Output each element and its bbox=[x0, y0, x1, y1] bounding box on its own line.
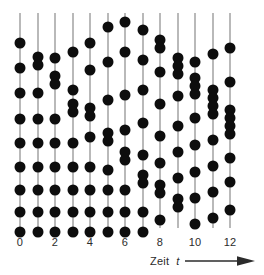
spike-dot bbox=[225, 153, 236, 164]
spike-dot bbox=[207, 213, 218, 224]
spike-dot bbox=[50, 138, 61, 149]
spike-dot bbox=[155, 131, 166, 142]
x-tick-label: 4 bbox=[87, 236, 93, 248]
spike-dot bbox=[155, 99, 166, 110]
right-arrow-icon bbox=[185, 255, 257, 267]
spike-dot bbox=[120, 155, 131, 166]
spike-dot bbox=[190, 140, 201, 151]
x-tick-label: 0 bbox=[17, 236, 23, 248]
trial-line bbox=[124, 13, 126, 228]
spike-dot bbox=[120, 90, 131, 101]
spike-dot bbox=[172, 121, 183, 132]
spike-dot bbox=[85, 162, 96, 173]
spike-dot bbox=[137, 85, 148, 96]
spike-dot bbox=[67, 185, 78, 196]
spike-dot bbox=[15, 114, 26, 125]
spike-dot bbox=[50, 185, 61, 196]
spike-dot bbox=[102, 227, 113, 238]
spike-dot bbox=[137, 25, 148, 36]
spike-dot bbox=[190, 113, 201, 124]
spike-dot bbox=[85, 207, 96, 218]
spike-dot bbox=[190, 167, 201, 178]
spike-dot bbox=[172, 202, 183, 213]
spike-dot bbox=[32, 207, 43, 218]
spike-dot bbox=[120, 125, 131, 136]
axis-caption: Zeit t bbox=[150, 255, 257, 267]
spike-dot bbox=[155, 43, 166, 54]
spike-dot bbox=[15, 162, 26, 173]
spike-dot bbox=[155, 67, 166, 78]
spike-dot bbox=[137, 227, 148, 238]
spike-dot bbox=[32, 227, 43, 238]
spike-dot bbox=[67, 107, 78, 118]
spike-dot bbox=[207, 49, 218, 60]
spike-dot bbox=[172, 91, 183, 102]
spike-dot bbox=[85, 185, 96, 196]
spike-dot bbox=[137, 150, 148, 161]
spike-dot bbox=[120, 207, 131, 218]
spike-dot bbox=[102, 207, 113, 218]
spike-dot bbox=[172, 69, 183, 80]
spike-dot bbox=[85, 65, 96, 76]
spike-dot bbox=[120, 185, 131, 196]
spike-dot bbox=[102, 57, 113, 68]
spike-dot bbox=[225, 177, 236, 188]
spike-dot bbox=[50, 207, 61, 218]
spike-dot bbox=[15, 88, 26, 99]
spike-dot bbox=[85, 111, 96, 122]
spike-dot bbox=[120, 17, 131, 28]
spike-dot bbox=[207, 187, 218, 198]
spike-dot bbox=[207, 135, 218, 146]
spike-dot bbox=[32, 88, 43, 99]
spike-dot bbox=[190, 57, 201, 68]
spike-dot bbox=[155, 158, 166, 169]
spike-dot bbox=[102, 136, 113, 147]
spike-dot bbox=[50, 53, 61, 64]
spike-dot bbox=[102, 22, 113, 33]
spike-dot bbox=[67, 162, 78, 173]
spike-dot bbox=[225, 129, 236, 140]
trial-line bbox=[107, 13, 109, 228]
spike-dot bbox=[225, 43, 236, 54]
spike-dot bbox=[67, 47, 78, 58]
spike-dot bbox=[102, 165, 113, 176]
spike-dot bbox=[32, 138, 43, 149]
spike-dot bbox=[32, 114, 43, 125]
spike-dot bbox=[32, 60, 43, 71]
spike-dot bbox=[155, 188, 166, 199]
spike-dot bbox=[137, 55, 148, 66]
spike-dot bbox=[67, 207, 78, 218]
raster-plot-figure: 024681012 Zeit t bbox=[0, 0, 264, 275]
axis-caption-variable: t bbox=[173, 255, 181, 267]
spike-dot bbox=[225, 77, 236, 88]
spike-dot bbox=[15, 63, 26, 74]
spike-dot bbox=[190, 193, 201, 204]
spike-dot bbox=[67, 227, 78, 238]
spike-dot bbox=[50, 114, 61, 125]
x-tick-label: 12 bbox=[224, 236, 237, 248]
spike-dot bbox=[137, 207, 148, 218]
spike-dot bbox=[85, 132, 96, 143]
x-tick-label: 10 bbox=[189, 236, 202, 248]
trial-line bbox=[72, 13, 74, 228]
spike-dot bbox=[67, 138, 78, 149]
x-tick-label: 8 bbox=[157, 236, 163, 248]
spike-dot bbox=[207, 109, 218, 120]
spike-dot bbox=[137, 118, 148, 129]
spike-dot bbox=[32, 162, 43, 173]
spike-dot bbox=[32, 185, 43, 196]
spike-dot bbox=[15, 138, 26, 149]
x-tick-label: 2 bbox=[52, 236, 58, 248]
spike-dot bbox=[190, 89, 201, 100]
spike-dot bbox=[225, 205, 236, 216]
spike-dot bbox=[85, 38, 96, 49]
spike-dot bbox=[172, 173, 183, 184]
x-tick-label: 6 bbox=[122, 236, 128, 248]
spike-dot bbox=[190, 219, 201, 230]
spike-dot bbox=[15, 207, 26, 218]
spike-dot bbox=[15, 185, 26, 196]
spike-dot bbox=[102, 95, 113, 106]
spike-dot bbox=[207, 161, 218, 172]
plot-area bbox=[0, 0, 264, 240]
spike-dot bbox=[172, 147, 183, 158]
